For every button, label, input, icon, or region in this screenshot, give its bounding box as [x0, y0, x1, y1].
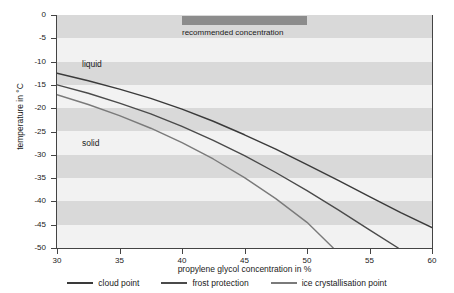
- y-tick-label: -30: [34, 151, 46, 159]
- legend-label: frost protection: [192, 278, 248, 288]
- series-line: [57, 73, 432, 227]
- y-tick: [51, 155, 57, 156]
- series-lines: [57, 15, 432, 248]
- x-tick: [120, 249, 121, 254]
- x-tick: [182, 249, 183, 254]
- x-tick: [57, 249, 58, 254]
- y-tick: [51, 108, 57, 109]
- legend-line-swatch: [271, 282, 297, 284]
- x-tick-label: 60: [417, 256, 447, 265]
- legend-line-swatch: [161, 282, 187, 284]
- y-tick-label: -5: [39, 34, 46, 42]
- y-tick: [51, 62, 57, 63]
- y-tick: [51, 85, 57, 86]
- y-tick-label: -50: [34, 244, 46, 252]
- y-tick-label: -20: [34, 104, 46, 112]
- y-tick: [51, 15, 57, 16]
- chart-legend: cloud pointfrost protectionice crystalli…: [0, 276, 454, 290]
- legend-item: frost protection: [161, 278, 248, 288]
- y-tick-label: -35: [34, 174, 46, 182]
- series-line: [57, 85, 398, 248]
- x-tick: [245, 249, 246, 254]
- x-tick: [370, 249, 371, 254]
- y-tick-label: 0: [42, 11, 46, 19]
- series-line: [57, 95, 333, 248]
- legend-item: cloud point: [67, 278, 139, 288]
- x-tick-label: 30: [42, 256, 72, 265]
- y-tick-label: -45: [34, 221, 46, 229]
- legend-line-swatch: [67, 282, 93, 284]
- legend-label: cloud point: [98, 278, 139, 288]
- y-tick: [51, 132, 57, 133]
- y-axis-title: temperature in °C: [16, 52, 25, 182]
- y-tick-label: -40: [34, 197, 46, 205]
- y-tick: [51, 178, 57, 179]
- y-tick-label: -15: [34, 81, 46, 89]
- y-tick-label: -25: [34, 128, 46, 136]
- x-axis-title: propylene glycol concentration in %: [57, 265, 432, 274]
- propylene-glycol-phase-chart: recommended concentration liquid solid 0…: [0, 0, 454, 293]
- plot-right-border: [432, 15, 433, 249]
- y-tick: [51, 38, 57, 39]
- x-tick: [307, 249, 308, 254]
- x-tick: [432, 249, 433, 254]
- legend-label: ice crystallisation point: [302, 278, 387, 288]
- x-tick-label: 55: [355, 256, 385, 265]
- y-tick: [51, 201, 57, 202]
- legend-item: ice crystallisation point: [271, 278, 387, 288]
- x-tick-label: 35: [105, 256, 135, 265]
- plot-area: recommended concentration liquid solid: [57, 15, 432, 248]
- y-tick: [51, 225, 57, 226]
- y-tick-label: -10: [34, 58, 46, 66]
